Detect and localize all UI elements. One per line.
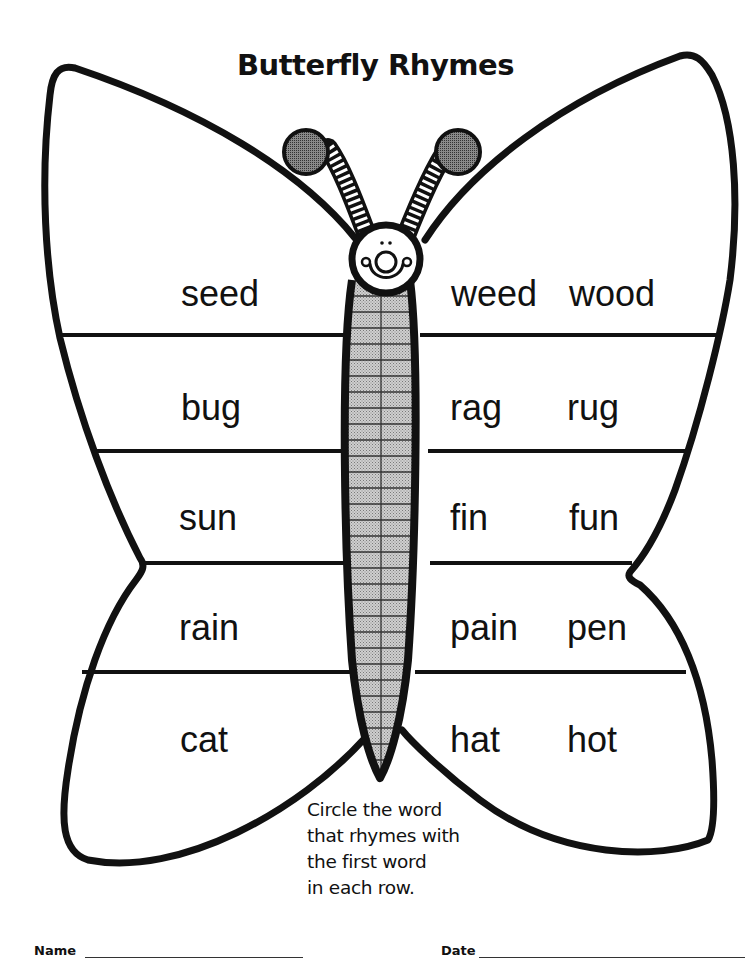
instructions-line-1: Circle the word: [307, 797, 460, 823]
instructions: Circle the word that rhymes with the fir…: [307, 797, 460, 901]
target-word-row-1: seed: [181, 276, 259, 312]
choice-word-row-4-a[interactable]: pain: [450, 610, 518, 646]
butterfly-face: [352, 225, 420, 293]
choice-word-row-1-a[interactable]: weed: [451, 276, 537, 312]
choice-word-row-5-b[interactable]: hot: [567, 722, 617, 758]
date-field[interactable]: [479, 957, 745, 958]
name-field[interactable]: [85, 957, 303, 958]
date-label: Date: [441, 943, 476, 958]
choice-word-row-4-b[interactable]: pen: [567, 610, 627, 646]
instructions-line-4: in each row.: [307, 875, 460, 901]
target-word-row-4: rain: [179, 610, 239, 646]
choice-word-row-2-b[interactable]: rug: [567, 390, 619, 426]
choice-word-row-2-a[interactable]: rag: [450, 390, 502, 426]
choice-word-row-1-b[interactable]: wood: [569, 276, 655, 312]
target-word-row-5: cat: [180, 722, 228, 758]
target-word-row-2: bug: [181, 390, 241, 426]
target-word-row-3: sun: [179, 500, 237, 536]
footer: Name Date: [0, 940, 751, 959]
instructions-line-2: that rhymes with: [307, 823, 460, 849]
choice-word-row-3-a[interactable]: fin: [450, 500, 488, 536]
instructions-line-3: the first word: [307, 849, 460, 875]
butterfly-body: [340, 280, 420, 780]
name-label: Name: [34, 943, 76, 958]
choice-word-row-3-b[interactable]: fun: [569, 500, 619, 536]
choice-word-row-5-a[interactable]: hat: [450, 722, 500, 758]
